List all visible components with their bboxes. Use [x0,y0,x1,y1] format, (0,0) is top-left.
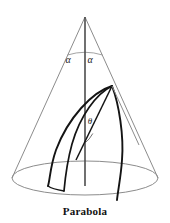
parabola-base-trace [48,186,64,191]
alpha-right-label: α [84,55,96,65]
alpha-left-label: α [62,55,74,65]
theta-label: θ [84,117,96,126]
parabola-left-branch [48,86,112,186]
parabola-cone-figure: α α θ Parabola [0,0,170,223]
figure-caption: Parabola [0,205,170,217]
parabola-right-branch [112,86,122,200]
cone-diagram-svg [0,0,170,223]
vertex-to-rim-line [112,86,139,145]
cone-left-slant-edge [12,17,85,178]
